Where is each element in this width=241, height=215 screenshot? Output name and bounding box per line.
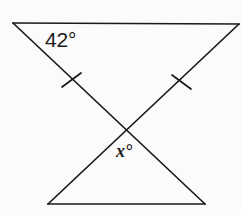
geometry-canvas: [0, 0, 241, 215]
segment-top-side: [13, 23, 239, 24]
angle-label-42-degrees: 42°: [45, 29, 76, 50]
angle-label-x-degrees: x°: [116, 142, 132, 160]
geometry-figure: 42° x°: [0, 0, 241, 215]
segment-diagonal-topright-to-bottomleft: [48, 24, 239, 204]
segment-diagonal-topleft-to-bottomright: [13, 23, 205, 204]
